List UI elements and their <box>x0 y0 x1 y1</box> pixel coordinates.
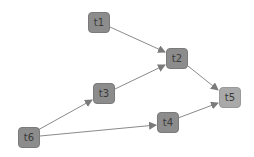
edge-t6-t4 <box>40 125 156 136</box>
node-label: t2 <box>172 53 182 64</box>
node-label: t3 <box>99 88 109 99</box>
edge-t6-t3 <box>38 100 92 130</box>
node-t4[interactable]: t4 <box>157 112 179 133</box>
edge-t2-t5 <box>188 66 218 90</box>
node-t3[interactable]: t3 <box>93 83 115 104</box>
node-label: t4 <box>163 117 173 128</box>
edge-t1-t2 <box>110 27 165 52</box>
node-label: t6 <box>24 132 34 143</box>
node-label: t5 <box>225 92 235 103</box>
node-label: t1 <box>94 17 104 28</box>
edge-t4-t5 <box>178 103 218 118</box>
edge-t3-t2 <box>115 65 165 89</box>
node-t6[interactable]: t6 <box>18 127 40 148</box>
node-t5[interactable]: t5 <box>219 87 241 108</box>
node-t1[interactable]: t1 <box>88 12 110 33</box>
node-t2[interactable]: t2 <box>166 48 188 69</box>
